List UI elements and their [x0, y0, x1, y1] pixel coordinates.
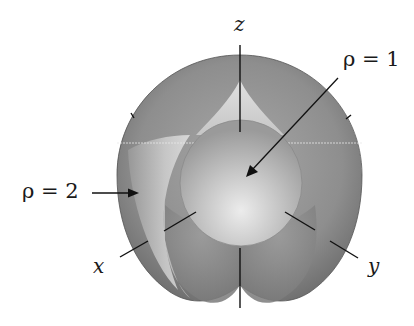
inner-sphere-label: ρ = 1 [343, 49, 400, 70]
inner-sphere-label-text: ρ = 1 [343, 47, 400, 71]
inner-sphere [180, 120, 302, 246]
outer-sphere-label-text: ρ = 2 [22, 179, 79, 203]
y-axis-label: y [368, 256, 379, 276]
z-axis-label: z [234, 14, 245, 34]
outer-sphere-label: ρ = 2 [22, 181, 79, 202]
x-axis-label: x [93, 256, 104, 276]
